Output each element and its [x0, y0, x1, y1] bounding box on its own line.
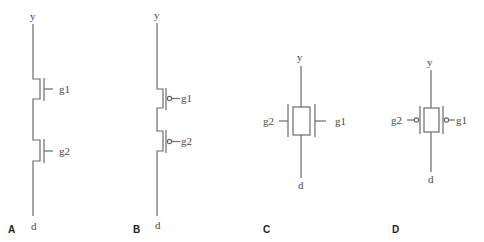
node-y-label: y [30, 10, 36, 22]
gate-label-g2: g2 [181, 135, 192, 147]
panel-label-a: A [8, 224, 15, 235]
node-y-label: y [297, 51, 303, 63]
channel-body [293, 107, 310, 135]
panel-label-b: B [133, 224, 140, 235]
node-d-label: d [428, 173, 434, 185]
transistor-diagram: y g1 g2 d A y g1 g2 d B y [0, 0, 484, 242]
node-y-label: y [427, 56, 433, 68]
gate-label-g2: g2 [263, 115, 274, 127]
inversion-bubble-icon [167, 96, 171, 100]
node-d-label: d [155, 219, 161, 231]
node-y-label: y [154, 9, 160, 21]
gate-label-g2: g2 [59, 145, 70, 157]
node-d-label: d [31, 220, 37, 232]
inversion-bubble-icon [444, 118, 448, 122]
panel-c: y g2 g1 d C [263, 51, 346, 235]
gate-label-g2: g2 [391, 114, 402, 126]
panel-a: y g1 g2 d A [8, 10, 70, 235]
gate-label-g1: g1 [335, 115, 346, 127]
panel-label-d: D [392, 224, 399, 235]
panel-label-c: C [263, 224, 270, 235]
node-d-label: d [298, 179, 304, 191]
series-wire [33, 24, 40, 216]
gate-label-g1: g1 [456, 114, 467, 126]
panel-b: y g1 g2 d B [133, 9, 192, 235]
gate-label-g1: g1 [59, 83, 70, 95]
inversion-bubble-icon [167, 139, 171, 143]
series-wire [157, 23, 163, 216]
inversion-bubble-icon [414, 118, 418, 122]
channel-body [424, 108, 439, 132]
gate-label-g1: g1 [181, 92, 192, 104]
panel-d: y g2 g1 d D [391, 56, 467, 235]
